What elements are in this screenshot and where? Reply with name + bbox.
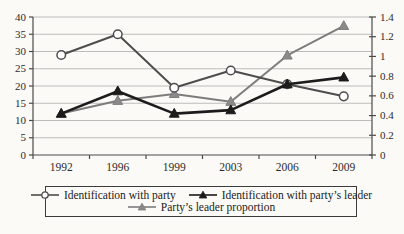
right-axis-tick-label: 1.4 — [380, 11, 394, 23]
right-axis-tick-label: 1 — [380, 50, 386, 62]
data-point-marker-circle — [57, 51, 66, 60]
legend-label-partys-leader-proportion: Party’s leader proportion — [161, 201, 275, 213]
data-point-marker-triangle — [339, 21, 349, 30]
data-point-marker-triangle — [113, 86, 123, 95]
legend-item-identification-with-partys-leader: Identification with party’s leader — [188, 189, 372, 201]
right-axis-tick-label: 0.6 — [380, 89, 394, 101]
x-axis-category-label: 2003 — [219, 161, 242, 173]
legend-label-identification-with-partys-leader: Identification with party’s leader — [222, 189, 372, 201]
series-line — [61, 77, 344, 113]
x-axis-category-label: 1996 — [106, 161, 129, 173]
left-axis-tick-label: 35 — [15, 28, 27, 40]
left-axis-tick-label: 20 — [15, 80, 27, 92]
left-axis-tick-label: 40 — [15, 11, 27, 23]
x-axis-category-label: 2006 — [276, 161, 299, 173]
legend-marker-gray-triangle-icon — [127, 202, 157, 212]
legend-marker-open-circle-icon — [30, 190, 60, 200]
x-axis-category-label: 2009 — [332, 161, 355, 173]
chart-figure: 051015202530354000.20.40.60.811.21.41992… — [0, 0, 404, 234]
left-axis-tick-label: 5 — [21, 131, 27, 143]
line-chart-plot: 051015202530354000.20.40.60.811.21.41992… — [0, 0, 404, 182]
right-axis-tick-label: 1.2 — [380, 30, 394, 42]
left-axis-tick-label: 0 — [21, 149, 27, 161]
series-line — [61, 34, 344, 96]
data-point-marker-circle — [170, 83, 179, 92]
x-axis-category-label: 1999 — [163, 161, 186, 173]
data-point-marker-circle — [113, 30, 122, 39]
data-point-marker-circle — [339, 92, 348, 101]
legend-item-partys-leader-proportion: Party’s leader proportion — [127, 201, 275, 213]
right-axis-tick-label: 0.2 — [380, 129, 394, 141]
left-axis-tick-label: 10 — [15, 114, 27, 126]
legend-marker-black-triangle-icon — [188, 190, 218, 200]
legend-label-identification-with-party: Identification with party — [64, 189, 176, 201]
right-axis-tick-label: 0.4 — [380, 109, 394, 121]
x-axis-category-label: 1992 — [50, 161, 73, 173]
left-axis-tick-label: 15 — [15, 97, 27, 109]
legend-row-1: Identification with party Identification… — [51, 189, 351, 201]
right-axis-tick-label: 0.8 — [380, 70, 394, 82]
data-point-marker-circle — [226, 66, 235, 75]
legend-marker-glyph — [42, 192, 48, 198]
chart-legend: Identification with party Identification… — [45, 186, 357, 217]
left-axis-tick-label: 30 — [15, 45, 27, 57]
legend-item-identification-with-party: Identification with party — [30, 189, 176, 201]
left-axis-tick-label: 25 — [15, 62, 27, 74]
right-axis-tick-label: 0 — [380, 149, 386, 161]
legend-row-2: Party’s leader proportion — [51, 201, 351, 213]
